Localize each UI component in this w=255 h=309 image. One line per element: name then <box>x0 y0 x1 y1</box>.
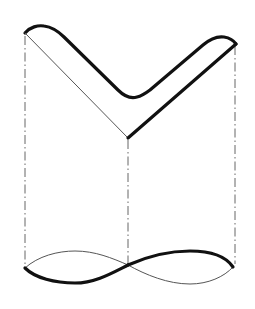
strip-fold-edge-right <box>128 44 236 138</box>
section-thin-lower-right <box>128 265 233 284</box>
diagram-stage <box>0 0 255 309</box>
projection-diagram <box>0 0 255 309</box>
section-thick-lower-left <box>25 265 128 283</box>
section-thick-upper-right <box>128 251 233 267</box>
section-thin-upper-left <box>25 251 128 268</box>
strip-top-edge <box>25 26 236 98</box>
